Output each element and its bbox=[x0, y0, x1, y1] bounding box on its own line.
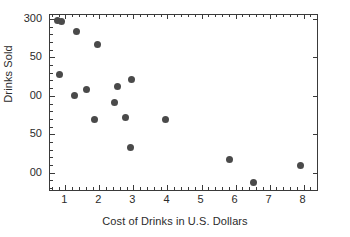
x-axis-minor-tick bbox=[263, 187, 264, 190]
x-axis-major-tick-top bbox=[133, 15, 134, 19]
data-point bbox=[83, 86, 90, 93]
plot-area bbox=[49, 14, 318, 191]
y-axis-minor-tick bbox=[50, 65, 53, 66]
y-axis-major-tick-right bbox=[313, 173, 317, 174]
x-axis-minor-tick bbox=[127, 187, 128, 190]
x-axis-minor-tick bbox=[147, 187, 148, 190]
y-axis-minor-tick bbox=[50, 127, 53, 128]
scatter-plot-figure: Drinks Sold 30050005000 12345678 Cost of… bbox=[0, 0, 350, 237]
x-axis-minor-tick bbox=[188, 187, 189, 190]
x-axis-tick-label: 8 bbox=[300, 193, 306, 205]
x-axis-minor-tick-top bbox=[174, 15, 175, 17]
y-axis-minor-tick bbox=[50, 119, 53, 120]
x-axis-minor-tick-top bbox=[147, 15, 148, 17]
x-axis-minor-tick-top bbox=[86, 15, 87, 17]
data-point bbox=[127, 144, 134, 151]
y-axis-minor-tick bbox=[50, 50, 53, 51]
y-axis-major-tick-right bbox=[313, 96, 317, 97]
x-axis-minor-tick bbox=[290, 187, 291, 190]
x-axis-minor-tick bbox=[79, 187, 80, 190]
y-axis-major-tick-right bbox=[313, 19, 317, 20]
y-axis-major-tick-right bbox=[313, 134, 317, 135]
x-axis-minor-tick-top bbox=[188, 15, 189, 17]
x-axis-minor-tick-top bbox=[263, 15, 264, 17]
x-axis-tick-label: 3 bbox=[129, 193, 135, 205]
x-axis-tick-label: 2 bbox=[95, 193, 101, 205]
data-point bbox=[128, 76, 135, 83]
x-axis-minor-tick-top bbox=[154, 15, 155, 17]
data-point bbox=[250, 179, 257, 186]
x-axis-major-tick-top bbox=[167, 15, 168, 19]
x-axis-major-tick bbox=[236, 185, 237, 190]
x-axis-minor-tick-top bbox=[256, 15, 257, 17]
x-axis-minor-tick-top bbox=[290, 15, 291, 17]
x-axis-minor-tick-top bbox=[140, 15, 141, 17]
x-axis-major-tick bbox=[167, 185, 168, 190]
x-axis-major-tick-top bbox=[304, 15, 305, 19]
x-axis-minor-tick-top bbox=[161, 15, 162, 17]
x-axis-minor-tick bbox=[93, 187, 94, 190]
x-axis-minor-tick bbox=[215, 187, 216, 190]
x-axis-minor-tick-top bbox=[283, 15, 284, 17]
x-axis-minor-tick bbox=[181, 187, 182, 190]
data-point bbox=[73, 28, 80, 35]
x-axis-major-tick bbox=[202, 185, 203, 190]
x-axis-minor-tick-top bbox=[222, 15, 223, 17]
x-axis-minor-tick-top bbox=[52, 15, 53, 17]
y-axis-major-tick bbox=[50, 96, 55, 97]
x-axis-major-tick-top bbox=[236, 15, 237, 19]
x-axis-minor-tick-top bbox=[317, 15, 318, 17]
x-axis-major-tick bbox=[65, 185, 66, 190]
x-axis-minor-tick-top bbox=[215, 15, 216, 17]
x-axis-minor-tick-top bbox=[127, 15, 128, 17]
y-axis-minor-tick bbox=[50, 180, 53, 181]
x-axis-minor-tick-top bbox=[208, 15, 209, 17]
x-axis-minor-tick bbox=[120, 187, 121, 190]
x-axis-minor-tick bbox=[154, 187, 155, 190]
x-axis-major-tick-top bbox=[99, 15, 100, 19]
x-axis-minor-tick bbox=[317, 187, 318, 190]
x-axis-minor-tick bbox=[106, 187, 107, 190]
x-axis-major-tick bbox=[270, 185, 271, 190]
x-axis-minor-tick-top bbox=[93, 15, 94, 17]
x-axis-minor-tick bbox=[242, 187, 243, 190]
x-axis-minor-tick-top bbox=[195, 15, 196, 17]
x-axis-minor-tick bbox=[283, 187, 284, 190]
x-axis-minor-tick-top bbox=[310, 15, 311, 17]
x-axis-minor-tick bbox=[195, 187, 196, 190]
data-point bbox=[91, 116, 98, 123]
x-axis-tick-label: 4 bbox=[163, 193, 169, 205]
y-axis-minor-tick bbox=[50, 73, 53, 74]
x-axis-minor-tick bbox=[208, 187, 209, 190]
y-axis-minor-tick bbox=[50, 111, 53, 112]
data-point bbox=[122, 114, 129, 121]
x-axis-tick-label: 7 bbox=[266, 193, 272, 205]
y-axis-major-tick bbox=[50, 173, 55, 174]
y-axis-minor-tick bbox=[50, 157, 53, 158]
x-axis-minor-tick-top bbox=[229, 15, 230, 17]
data-point bbox=[111, 99, 118, 106]
x-axis-tick-label: 1 bbox=[61, 193, 67, 205]
y-axis-minor-tick bbox=[50, 150, 53, 151]
x-axis-major-tick bbox=[133, 185, 134, 190]
x-axis-minor-tick bbox=[140, 187, 141, 190]
data-point bbox=[297, 162, 304, 169]
y-axis-minor-tick bbox=[50, 104, 53, 105]
x-axis-major-tick-top bbox=[65, 15, 66, 19]
x-axis-minor-tick-top bbox=[79, 15, 80, 17]
y-axis-minor-tick bbox=[50, 165, 53, 166]
y-axis-minor-tick bbox=[50, 27, 53, 28]
x-axis-minor-tick bbox=[174, 187, 175, 190]
x-axis-minor-tick-top bbox=[120, 15, 121, 17]
x-axis-minor-tick bbox=[161, 187, 162, 190]
x-axis-minor-tick-top bbox=[242, 15, 243, 17]
x-axis-minor-tick-top bbox=[276, 15, 277, 17]
x-axis-major-tick-top bbox=[202, 15, 203, 19]
x-axis-minor-tick bbox=[276, 187, 277, 190]
x-axis-major-tick-top bbox=[270, 15, 271, 19]
y-axis-minor-tick bbox=[50, 88, 53, 89]
y-axis-minor-tick bbox=[50, 142, 53, 143]
x-axis-minor-tick bbox=[229, 187, 230, 190]
x-axis-minor-tick-top bbox=[106, 15, 107, 17]
x-axis-minor-tick-top bbox=[249, 15, 250, 17]
